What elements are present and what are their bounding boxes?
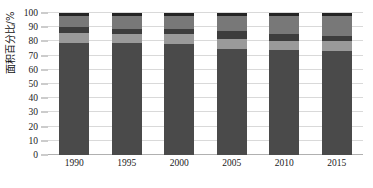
bar-segment-2010-series-3[interactable] — [269, 34, 299, 41]
y-tick-label-10: 10 — [29, 136, 39, 146]
x-tick-label-2005: 2005 — [222, 158, 241, 168]
x-axis-tick-labels: 199019952000200520102015 — [48, 158, 363, 178]
y-tick-label-80: 80 — [29, 36, 39, 46]
y-tick-label-20: 20 — [29, 122, 39, 132]
bar-segment-1995-series-4[interactable] — [112, 16, 142, 29]
bar-segment-2015-series-1[interactable] — [322, 51, 352, 155]
y-tick-label-40: 40 — [29, 93, 39, 103]
bar-segment-2000-series-2[interactable] — [164, 34, 194, 44]
bar-segment-1995-series-2[interactable] — [112, 34, 142, 43]
bar-segment-2005-series-3[interactable] — [217, 31, 247, 38]
y-axis-tick-labels: 0102030405060708090100 — [0, 13, 48, 155]
bar-segment-2010-series-4[interactable] — [269, 16, 299, 34]
y-tick-mark-0 — [41, 155, 48, 156]
y-tick-mark-80 — [41, 41, 48, 42]
plot-area — [48, 13, 363, 155]
bar-segment-2005-series-2[interactable] — [217, 39, 247, 49]
y-tick-label-100: 100 — [24, 8, 38, 18]
y-tick-mark-30 — [41, 112, 48, 113]
bar-group-1995[interactable] — [112, 13, 142, 155]
y-tick-label-0: 0 — [33, 150, 38, 160]
y-tick-label-90: 90 — [29, 22, 39, 32]
bar-group-2015[interactable] — [322, 13, 352, 155]
x-tick-label-1990: 1990 — [65, 158, 84, 168]
stacked-bar-chart: 面积百分比/% 0102030405060708090100 199019952… — [0, 0, 373, 188]
bar-segment-1990-series-1[interactable] — [59, 43, 89, 155]
bar-group-2005[interactable] — [217, 13, 247, 155]
y-tick-label-60: 60 — [29, 65, 39, 75]
bar-series-container — [48, 13, 363, 155]
bar-segment-2005-series-1[interactable] — [217, 49, 247, 156]
bar-segment-1990-series-4[interactable] — [59, 16, 89, 27]
x-tick-label-1995: 1995 — [117, 158, 136, 168]
y-tick-mark-90 — [41, 27, 48, 28]
bar-group-1990[interactable] — [59, 13, 89, 155]
bar-segment-2015-series-2[interactable] — [322, 41, 352, 51]
y-tick-mark-70 — [41, 55, 48, 56]
bar-segment-2005-series-4[interactable] — [217, 16, 247, 32]
bar-segment-2010-series-2[interactable] — [269, 41, 299, 50]
y-tick-mark-100 — [41, 13, 48, 14]
bar-group-2010[interactable] — [269, 13, 299, 155]
bar-segment-2000-series-4[interactable] — [164, 16, 194, 29]
x-tick-label-2000: 2000 — [170, 158, 189, 168]
x-tick-label-2010: 2010 — [275, 158, 294, 168]
bar-segment-1990-series-2[interactable] — [59, 33, 89, 43]
y-tick-label-30: 30 — [29, 107, 39, 117]
y-tick-mark-10 — [41, 140, 48, 141]
y-tick-mark-60 — [41, 69, 48, 70]
y-tick-mark-50 — [41, 84, 48, 85]
bar-group-2000[interactable] — [164, 13, 194, 155]
bar-segment-2010-series-1[interactable] — [269, 50, 299, 155]
bar-segment-2015-series-4[interactable] — [322, 16, 352, 36]
bar-segment-2000-series-1[interactable] — [164, 44, 194, 155]
y-tick-mark-40 — [41, 98, 48, 99]
y-tick-mark-20 — [41, 126, 48, 127]
y-tick-label-70: 70 — [29, 51, 39, 61]
y-tick-label-50: 50 — [29, 79, 39, 89]
x-tick-label-2015: 2015 — [327, 158, 346, 168]
bar-segment-1995-series-1[interactable] — [112, 43, 142, 155]
